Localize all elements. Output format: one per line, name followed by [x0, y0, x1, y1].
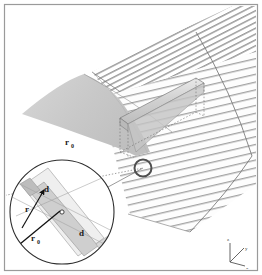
figure-root: r 0: [0, 0, 262, 275]
label-d-lower: d: [79, 228, 84, 238]
label-r-inset: r: [25, 204, 29, 214]
label-r0-inset-base: r: [31, 233, 35, 243]
label-r0-outer-base: r: [65, 137, 69, 147]
ruled-surface-diagram: r 0: [0, 0, 262, 275]
label-d-upper: d: [44, 184, 49, 194]
inset-center-point: [60, 210, 64, 214]
label-r0-inset-sub: 0: [37, 239, 40, 245]
label-r0-outer-sub: 0: [71, 143, 74, 149]
